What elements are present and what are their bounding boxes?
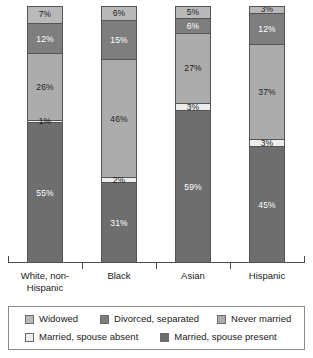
- segment-divider: [27, 23, 63, 24]
- segment-divider: [27, 53, 63, 54]
- segment-married-spouse-present[interactable]: 45%: [249, 147, 285, 263]
- segment-value-label: 46%: [110, 115, 127, 124]
- segment-value-label: 37%: [258, 88, 275, 97]
- category-label-0-line1: White, non-: [3, 270, 87, 282]
- segment-never-married[interactable]: 37%: [249, 45, 285, 140]
- stacked-bar-chart: 7%12%26%1%55%6%15%46%2%31%5%6%27%3%59%3%…: [0, 0, 313, 358]
- legend-item-divorced-separated: Divorced, separated: [100, 314, 199, 324]
- axis-tick-1: [82, 263, 83, 269]
- category-label-0-line2: Hispanic: [3, 282, 87, 294]
- segment-divorced-separated[interactable]: 12%: [249, 14, 285, 45]
- category-label-2: Asian: [151, 270, 235, 282]
- legend-swatch-never-married: [217, 315, 226, 324]
- segment-widowed[interactable]: 7%: [27, 6, 63, 24]
- legend-item-married-spouse-present: Married, spouse present: [160, 332, 276, 342]
- legend-row-2: Married, spouse absent Married, spouse p…: [9, 328, 304, 346]
- bar-black[interactable]: 6%15%46%2%31%: [101, 6, 137, 263]
- bar-asian[interactable]: 5%6%27%3%59%: [175, 6, 211, 263]
- segment-divorced-separated[interactable]: 6%: [175, 19, 211, 34]
- segment-value-label: 26%: [36, 83, 53, 92]
- segment-married-spouse-present[interactable]: 55%: [27, 123, 63, 263]
- axis-end-tick-right: [304, 256, 305, 263]
- segment-value-label: 45%: [258, 201, 275, 210]
- legend-swatch-married-spouse-present: [160, 333, 169, 342]
- segment-never-married[interactable]: 46%: [101, 60, 137, 178]
- bar-white-non-hispanic[interactable]: 7%12%26%1%55%: [27, 6, 63, 263]
- segment-divorced-separated[interactable]: 15%: [101, 21, 137, 60]
- segment-value-label: 5%: [187, 8, 200, 17]
- segment-value-label: 3%: [261, 139, 274, 148]
- category-label-1: Black: [77, 270, 161, 282]
- segment-value-label: 3%: [261, 5, 274, 14]
- segment-value-label: 1%: [39, 117, 52, 126]
- legend-label-married-spouse-present: Married, spouse present: [174, 332, 276, 342]
- segment-divider: [101, 59, 137, 60]
- segment-married-spouse-present[interactable]: 31%: [101, 183, 137, 263]
- legend-label-widowed: Widowed: [39, 314, 78, 324]
- legend-swatch-widowed: [25, 315, 34, 324]
- segment-value-label: 12%: [258, 25, 275, 34]
- axis-tick-2: [156, 263, 157, 269]
- segment-divider: [175, 18, 211, 19]
- legend-item-never-married: Never married: [217, 314, 291, 324]
- segment-widowed[interactable]: 6%: [101, 6, 137, 21]
- segment-value-label: 59%: [184, 183, 201, 192]
- legend-label-divorced-separated: Divorced, separated: [114, 314, 199, 324]
- segment-value-label: 15%: [110, 36, 127, 45]
- category-label-1-line1: Black: [77, 270, 161, 282]
- segment-value-label: 27%: [184, 64, 201, 73]
- segment-value-label: 6%: [113, 9, 126, 18]
- legend-item-widowed: Widowed: [25, 314, 78, 324]
- plot-area: 7%12%26%1%55%6%15%46%2%31%5%6%27%3%59%3%…: [0, 0, 313, 263]
- segment-value-label: 12%: [36, 35, 53, 44]
- category-label-3-line1: Hispanic: [225, 270, 309, 282]
- segment-value-label: 2%: [113, 176, 126, 185]
- legend-swatch-married-spouse-absent: [25, 333, 34, 342]
- legend-swatch-divorced-separated: [100, 315, 109, 324]
- segment-divider: [175, 33, 211, 34]
- chart-legend: Widowed Divorced, separated Never marrie…: [8, 306, 305, 350]
- segment-divider: [249, 44, 285, 45]
- segment-value-label: 55%: [36, 189, 53, 198]
- segment-never-married[interactable]: 27%: [175, 34, 211, 103]
- legend-row-1: Widowed Divorced, separated Never marrie…: [9, 310, 304, 328]
- category-label-2-line1: Asian: [151, 270, 235, 282]
- bar-hispanic[interactable]: 3%12%37%3%45%: [249, 6, 285, 263]
- category-label-0: White, non- Hispanic: [3, 270, 87, 293]
- segment-value-label: 7%: [39, 10, 52, 19]
- segment-divider: [101, 20, 137, 21]
- segment-value-label: 31%: [110, 219, 127, 228]
- segment-value-label: 3%: [187, 103, 200, 112]
- segment-value-label: 6%: [187, 22, 200, 31]
- category-label-3: Hispanic: [225, 270, 309, 282]
- axis-tick-3: [230, 263, 231, 269]
- legend-label-married-spouse-absent: Married, spouse absent: [39, 332, 138, 342]
- legend-label-never-married: Never married: [231, 314, 291, 324]
- segment-divorced-separated[interactable]: 12%: [27, 24, 63, 55]
- segment-married-spouse-present[interactable]: 59%: [175, 111, 211, 263]
- axis-end-tick-left: [8, 256, 9, 263]
- legend-item-married-spouse-absent: Married, spouse absent: [25, 332, 138, 342]
- segment-never-married[interactable]: 26%: [27, 54, 63, 120]
